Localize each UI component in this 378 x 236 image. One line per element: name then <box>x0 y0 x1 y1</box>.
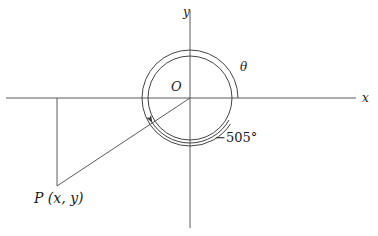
point-p-label: P (x, y) <box>34 191 84 205</box>
x-axis-label: x <box>362 92 369 104</box>
diagram-canvas: x y O θ −505° P (x, y) <box>0 0 378 236</box>
y-axis-label: y <box>183 6 190 18</box>
origin-label: O <box>171 80 182 93</box>
angle-measure-label: −505° <box>215 131 257 144</box>
theta-label: θ <box>240 61 247 73</box>
